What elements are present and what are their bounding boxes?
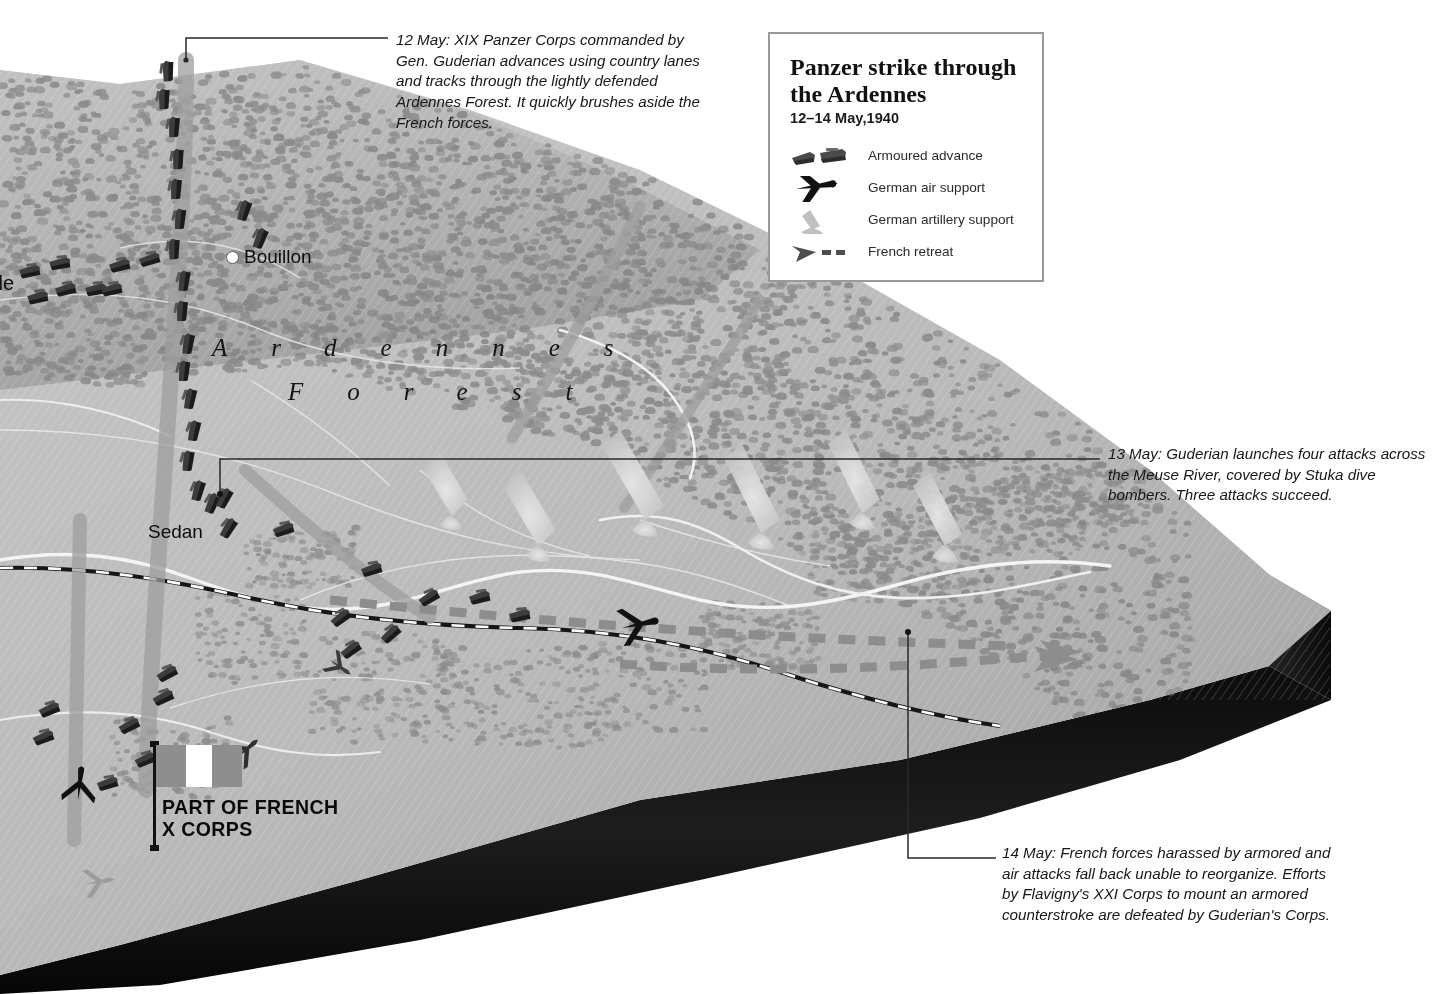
legend-label-air-support: German air support (868, 180, 985, 195)
legend-row-air-support: German air support (790, 176, 1030, 202)
city-dot-bouillon (226, 251, 239, 264)
map-legend: Panzer strike through the Ardennes 12–14… (768, 32, 1044, 282)
legend-label-artillery-support: German artillery support (868, 212, 1014, 227)
forest-label-line2: Forest (288, 378, 616, 406)
french-tricolour-icon (156, 745, 242, 787)
retreat-arrow-icon (790, 240, 852, 266)
flag-staff-cap-bottom (150, 845, 159, 851)
unit-marker-label: PART OF FRENCH X CORPS (162, 796, 392, 840)
leader-line-may12 (186, 38, 388, 60)
city-label-bouillon: Bouillon (244, 246, 312, 268)
legend-row-artillery-support: German artillery support (790, 208, 1030, 234)
forest-label-line1: Ardennes (212, 334, 658, 362)
city-label-sedan: Sedan (148, 521, 203, 543)
legend-label-french-retreat: French retreat (868, 244, 953, 259)
airplane-icon (790, 176, 852, 202)
artillery-icon (790, 208, 852, 234)
annotation-may14: 14 May: French forces harassed by armore… (1002, 843, 1342, 926)
annotation-may13: 13 May: Guderian launches four attacks a… (1108, 444, 1438, 506)
legend-subtitle: 12–14 May,1940 (790, 110, 899, 126)
legend-label-armoured-advance: Armoured advance (868, 148, 983, 163)
city-label-clipped: lle (0, 272, 14, 295)
legend-row-armoured-advance: Armoured advance (790, 144, 1030, 170)
tank-icon (790, 144, 852, 170)
legend-row-french-retreat: French retreat (790, 240, 1030, 266)
map-canvas: Bouillon Sedan lle Ardennes Forest PART … (0, 0, 1439, 994)
annotation-may12: 12 May: XIX Panzer Corps commanded by Ge… (396, 30, 716, 133)
legend-title: Panzer strike through the Ardennes (790, 54, 1030, 108)
